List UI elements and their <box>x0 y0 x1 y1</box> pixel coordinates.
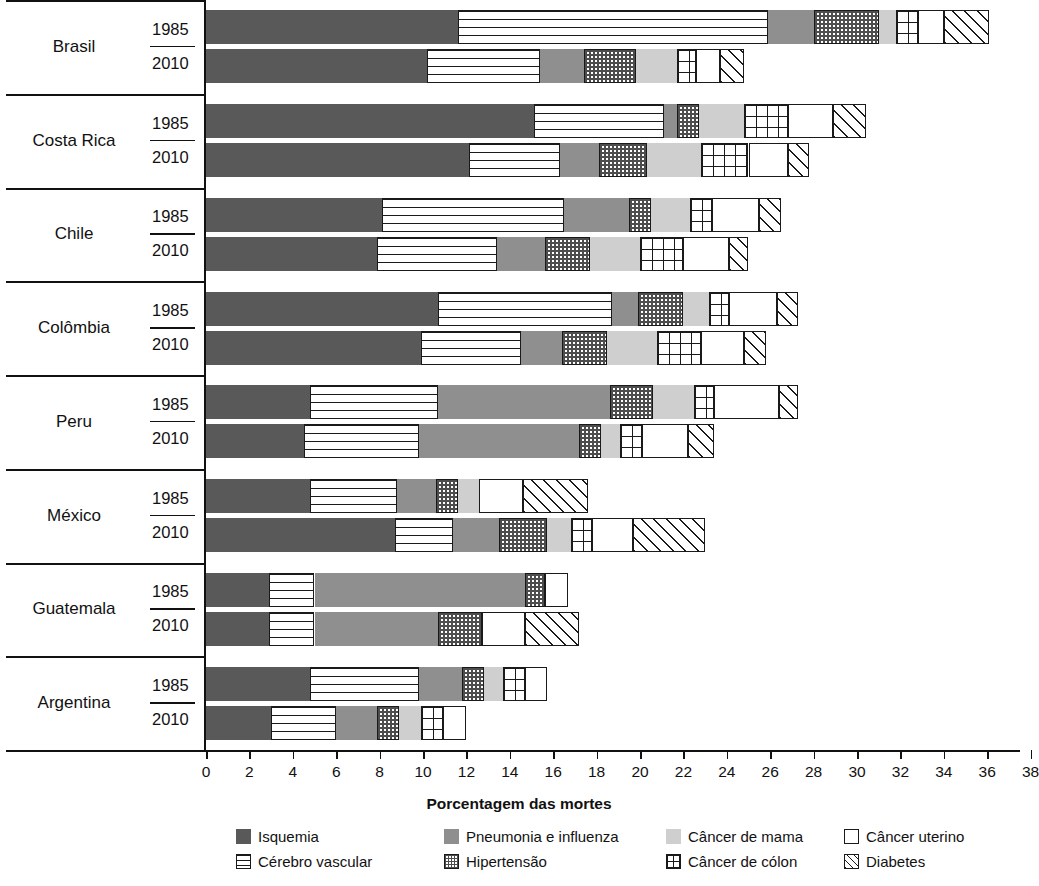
bar-segment-cerebro[interactable] <box>395 518 454 552</box>
bar-segment-cerebro[interactable] <box>304 424 419 458</box>
bar-segment-diabetes[interactable] <box>788 143 810 177</box>
bar-segment-colon[interactable] <box>620 424 642 458</box>
bar-segment-hipertensao[interactable] <box>584 49 636 83</box>
bar-segment-diabetes[interactable] <box>523 479 588 513</box>
bar-segment-diabetes[interactable] <box>720 49 744 83</box>
bar-segment-diabetes[interactable] <box>633 518 705 552</box>
bar-segment-hipertensao[interactable] <box>545 237 591 271</box>
bar-segment-isquemia[interactable] <box>206 667 310 701</box>
bar-segment-diabetes[interactable] <box>744 331 766 365</box>
bar-segment-hipertensao[interactable] <box>610 385 653 419</box>
legend-item-pneumonia[interactable]: Pneumonia e influenza <box>444 828 619 845</box>
bar-segment-mama[interactable] <box>879 10 896 44</box>
legend-item-diabetes[interactable]: Diabetes <box>844 853 925 870</box>
bar-guatemala-1985[interactable] <box>206 573 1006 607</box>
legend-item-isquemia[interactable]: Isquemia <box>236 828 319 845</box>
bar-segment-pneumonia[interactable] <box>315 612 439 646</box>
bar-segment-uterino[interactable] <box>525 667 547 701</box>
bar-segment-pneumonia[interactable] <box>453 518 499 552</box>
bar-segment-pneumonia[interactable] <box>315 573 525 607</box>
bar-col-mbia-2010[interactable] <box>206 331 1006 365</box>
bar-segment-hipertensao[interactable] <box>579 424 601 458</box>
bar-segment-mama[interactable] <box>636 49 677 83</box>
bar-segment-cerebro[interactable] <box>458 10 768 44</box>
bar-segment-diabetes[interactable] <box>944 10 990 44</box>
bar-segment-pneumonia[interactable] <box>540 49 583 83</box>
bar-segment-pneumonia[interactable] <box>768 10 814 44</box>
bar-segment-uterino[interactable] <box>592 518 633 552</box>
bar-segment-uterino[interactable] <box>545 573 569 607</box>
bar-brasil-2010[interactable] <box>206 49 1006 83</box>
bar-segment-cerebro[interactable] <box>382 198 564 232</box>
bar-segment-hipertensao[interactable] <box>638 292 684 326</box>
bar-segment-diabetes[interactable] <box>525 612 579 646</box>
bar-peru-2010[interactable] <box>206 424 1006 458</box>
bar-segment-isquemia[interactable] <box>206 104 534 138</box>
bar-segment-isquemia[interactable] <box>206 143 469 177</box>
bar-segment-isquemia[interactable] <box>206 479 310 513</box>
bar-segment-pneumonia[interactable] <box>336 706 377 740</box>
bar-segment-mama[interactable] <box>590 237 640 271</box>
bar-guatemala-2010[interactable] <box>206 612 1006 646</box>
bar-m-xico-2010[interactable] <box>206 518 1006 552</box>
bar-segment-mama[interactable] <box>653 385 694 419</box>
bar-segment-isquemia[interactable] <box>206 49 427 83</box>
bar-segment-pneumonia[interactable] <box>419 667 462 701</box>
bar-segment-hipertensao[interactable] <box>499 518 547 552</box>
bar-segment-hipertensao[interactable] <box>525 573 545 607</box>
bar-segment-cerebro[interactable] <box>310 479 397 513</box>
bar-segment-pneumonia[interactable] <box>521 331 562 365</box>
bar-segment-cerebro[interactable] <box>310 667 419 701</box>
bar-segment-isquemia[interactable] <box>206 424 304 458</box>
bar-segment-pneumonia[interactable] <box>497 237 545 271</box>
bar-segment-mama[interactable] <box>607 331 657 365</box>
bar-segment-mama[interactable] <box>484 667 504 701</box>
bar-segment-mama[interactable] <box>458 479 480 513</box>
bar-segment-uterino[interactable] <box>788 104 834 138</box>
bar-segment-cerebro[interactable] <box>534 104 664 138</box>
bar-segment-colon[interactable] <box>421 706 443 740</box>
legend-item-hipertensao[interactable]: Hipertensão <box>444 853 547 870</box>
bar-segment-colon[interactable] <box>896 10 918 44</box>
bar-segment-hipertensao[interactable] <box>438 612 481 646</box>
legend-item-mama[interactable]: Câncer de mama <box>666 828 803 845</box>
bar-segment-pneumonia[interactable] <box>397 479 436 513</box>
bar-segment-cerebro[interactable] <box>421 331 521 365</box>
bar-segment-isquemia[interactable] <box>206 331 421 365</box>
bar-argentina-1985[interactable] <box>206 667 1006 701</box>
bar-segment-colon[interactable] <box>640 237 683 271</box>
bar-segment-uterino[interactable] <box>729 292 777 326</box>
legend-item-cerebro[interactable]: Cérebro vascular <box>236 853 372 870</box>
bar-segment-colon[interactable] <box>657 331 700 365</box>
bar-brasil-1985[interactable] <box>206 10 1006 44</box>
bar-peru-1985[interactable] <box>206 385 1006 419</box>
bar-segment-uterino[interactable] <box>714 385 779 419</box>
bar-segment-uterino[interactable] <box>712 198 760 232</box>
bar-segment-diabetes[interactable] <box>777 292 799 326</box>
bar-segment-mama[interactable] <box>647 143 701 177</box>
bar-argentina-2010[interactable] <box>206 706 1006 740</box>
bar-segment-cerebro[interactable] <box>438 292 612 326</box>
bar-segment-uterino[interactable] <box>696 49 720 83</box>
bar-segment-colon[interactable] <box>701 143 749 177</box>
bar-segment-uterino[interactable] <box>479 479 522 513</box>
bar-segment-isquemia[interactable] <box>206 198 382 232</box>
bar-segment-hipertensao[interactable] <box>436 479 458 513</box>
bar-segment-diabetes[interactable] <box>759 198 781 232</box>
bar-segment-uterino[interactable] <box>482 612 525 646</box>
bar-segment-isquemia[interactable] <box>206 706 271 740</box>
bar-segment-mama[interactable] <box>399 706 421 740</box>
bar-segment-isquemia[interactable] <box>206 573 269 607</box>
bar-segment-isquemia[interactable] <box>206 385 310 419</box>
bar-segment-colon[interactable] <box>503 667 525 701</box>
bar-segment-cerebro[interactable] <box>310 385 438 419</box>
bar-segment-cerebro[interactable] <box>377 237 496 271</box>
bar-segment-diabetes[interactable] <box>833 104 866 138</box>
bar-segment-cerebro[interactable] <box>469 143 560 177</box>
bar-segment-pneumonia[interactable] <box>664 104 677 138</box>
bar-segment-pneumonia[interactable] <box>612 292 638 326</box>
bar-chile-1985[interactable] <box>206 198 1006 232</box>
bar-segment-colon[interactable] <box>694 385 714 419</box>
bar-segment-uterino[interactable] <box>443 706 467 740</box>
bar-segment-isquemia[interactable] <box>206 10 458 44</box>
